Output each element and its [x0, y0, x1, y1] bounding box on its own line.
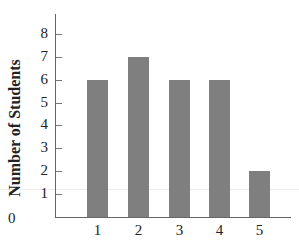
y-tick-label: 2 — [34, 162, 48, 178]
x-tick-label: 4 — [209, 222, 230, 238]
y-tick-label: 3 — [34, 139, 48, 155]
x-axis — [55, 217, 291, 218]
y-tick-label: 6 — [34, 71, 48, 87]
bar-4 — [209, 80, 230, 217]
x-tick-label: 2 — [128, 222, 149, 238]
y-axis-label: Number of Students — [6, 59, 24, 197]
bar-5 — [249, 171, 270, 217]
x-tick-label: 3 — [169, 222, 190, 238]
y-tick-label: 4 — [34, 116, 48, 132]
y-tick-mark — [56, 103, 62, 104]
origin-label: 0 — [8, 210, 16, 226]
y-tick-mark — [56, 194, 62, 195]
y-tick-label: 8 — [34, 25, 48, 41]
y-tick-label: 1 — [34, 185, 48, 201]
x-tick-label: 5 — [249, 222, 270, 238]
bar-2 — [128, 57, 149, 217]
bar-1 — [87, 80, 108, 217]
x-tick-label: 1 — [87, 222, 108, 238]
y-tick-mark — [56, 34, 62, 35]
bar-chart: Number of Students 12345678 0 12345 — [0, 0, 299, 245]
y-tick-mark — [56, 171, 62, 172]
y-axis — [55, 14, 56, 218]
y-tick-mark — [56, 57, 62, 58]
y-tick-mark — [56, 80, 62, 81]
y-tick-mark — [56, 125, 62, 126]
y-tick-mark — [56, 148, 62, 149]
y-tick-label: 5 — [34, 94, 48, 110]
y-tick-label: 7 — [34, 48, 48, 64]
bar-3 — [169, 80, 190, 217]
